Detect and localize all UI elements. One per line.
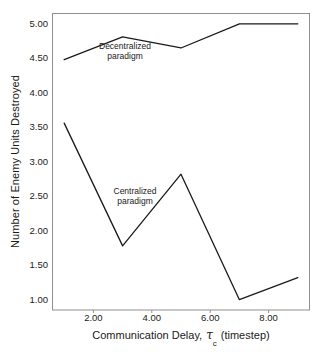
chart-figure: Number of Enemy Units Destroyed 1.001.50… xyxy=(0,0,325,357)
x-axis-units: (timestep) xyxy=(221,329,270,341)
tau-symbol: τ xyxy=(202,328,213,342)
x-axis-label-text: Communication Delay, xyxy=(92,329,202,341)
tau-subscript: c xyxy=(213,339,221,348)
annotation-centralized-paradigm: Centralized paradigm xyxy=(100,186,170,206)
plot-area xyxy=(0,0,325,357)
x-axis-label: Communication Delay,τc(timestep) xyxy=(52,328,310,344)
annotation-decentralized-paradigm: Decentralized paradigm xyxy=(90,41,160,61)
